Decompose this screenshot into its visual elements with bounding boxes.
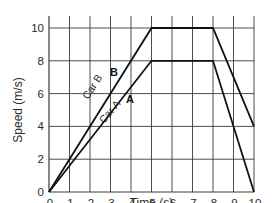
grid xyxy=(49,16,254,192)
car-b-label: Car B xyxy=(80,72,105,101)
speed-time-chart: 012345678910 0246810 Time (s) Speed (m/s… xyxy=(0,0,274,203)
y-axis-title: Speed (m/s) xyxy=(11,77,25,142)
x-tick-label: 10 xyxy=(249,197,262,203)
x-axis-title: Time (s) xyxy=(130,196,174,203)
x-tick-label: 0 xyxy=(47,197,53,203)
x-tick-label: 3 xyxy=(108,197,114,203)
y-tick-label: 8 xyxy=(38,55,44,67)
car-a-marker: A xyxy=(126,93,134,105)
x-tick-label: 1 xyxy=(67,197,73,203)
y-tick-label: 10 xyxy=(31,22,44,34)
x-tick-label: 2 xyxy=(88,197,94,203)
y-tick-label: 4 xyxy=(38,120,45,132)
y-axis-ticks: 0246810 xyxy=(31,22,44,198)
x-tick-label: 7 xyxy=(190,197,196,203)
car-b-marker: B xyxy=(110,66,118,78)
y-tick-label: 6 xyxy=(38,88,44,100)
x-tick-label: 9 xyxy=(231,197,237,203)
x-tick-label: 8 xyxy=(211,197,217,203)
y-tick-label: 2 xyxy=(38,153,44,165)
y-tick-label: 0 xyxy=(38,186,44,198)
